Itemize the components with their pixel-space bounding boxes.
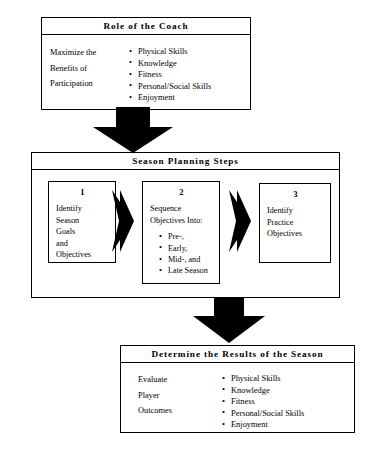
list-item: Fitness: [129, 69, 211, 81]
season-planning-steps-title: Season Planning Steps: [32, 153, 339, 170]
step-text: Identify Practice Objectives: [267, 205, 324, 240]
determine-results-title: Determine the Results of the Season: [121, 346, 354, 363]
role-of-the-coach-title: Role of the Coach: [42, 18, 250, 35]
list-item: Physical Skills: [222, 373, 304, 385]
list-item: Personal/Social Skills: [129, 81, 211, 93]
list-item: Late Season: [159, 265, 213, 276]
list-item: Fitness: [222, 396, 304, 408]
step-number: 3: [267, 189, 324, 199]
list-item: Knowledge: [222, 385, 304, 397]
list-item: Physical Skills: [129, 46, 211, 58]
flowchart-diagram: Role of the Coach Maximize the Benefits …: [0, 0, 375, 451]
step-text: Identify Season Goals and Objectives: [56, 203, 109, 261]
list-item: Enjoyment: [222, 419, 304, 431]
determine-results-panel: Determine the Results of the Season Eval…: [120, 345, 355, 433]
step-box-1: 1 Identify Season Goals and Objectives: [48, 181, 116, 263]
list-item: Early,: [159, 243, 213, 254]
list-item: Personal/Social Skills: [222, 408, 304, 420]
player-outcomes-list: Physical Skills Knowledge Fitness Person…: [222, 373, 304, 431]
arrow-right-icon: [229, 190, 251, 252]
arrow-down-icon: [93, 107, 173, 153]
role-of-the-coach-panel: Role of the Coach Maximize the Benefits …: [41, 17, 251, 110]
season-planning-steps-panel: Season Planning Steps 1 Identify Season …: [31, 152, 340, 298]
step-number: 2: [150, 187, 213, 197]
list-item: Enjoyment: [129, 92, 211, 104]
list-item: Mid-, and: [159, 254, 213, 265]
maximize-benefits-label: Maximize the Benefits of Participation: [50, 45, 124, 92]
step-text: Sequence Objectives Into:: [150, 203, 213, 226]
step-box-3: 3 Identify Practice Objectives: [259, 183, 331, 263]
arrow-down-icon: [193, 297, 265, 343]
season-phases-list: Pre-, Early, Mid-, and Late Season: [159, 231, 213, 277]
coach-outcomes-list: Physical Skills Knowledge Fitness Person…: [129, 46, 211, 104]
list-item: Knowledge: [129, 58, 211, 70]
step-box-2: 2 Sequence Objectives Into: Pre-, Early,…: [142, 181, 220, 284]
role-of-the-coach-body: Maximize the Benefits of Participation P…: [42, 35, 250, 104]
evaluate-player-outcomes-label: Evaluate Player Outcomes: [138, 372, 200, 419]
determine-results-body: Evaluate Player Outcomes Physical Skills…: [121, 363, 354, 431]
arrow-right-icon: [112, 190, 134, 252]
step-number: 1: [56, 187, 109, 197]
list-item: Pre-,: [159, 231, 213, 242]
